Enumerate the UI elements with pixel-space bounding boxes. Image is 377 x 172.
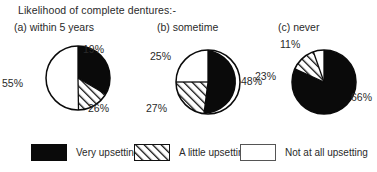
pie-c-value-black: 66%: [351, 91, 372, 103]
legend: Very upsetting A little upsetting Not: [0, 141, 377, 165]
pie-c-value-white: 11%: [280, 38, 300, 50]
hatch-swatch-svg: [135, 145, 169, 160]
panel-label-a: (a) within 5 years: [14, 21, 94, 33]
legend-item-a-little-upsetting: A little upsetting: [134, 141, 249, 163]
figure-title: Likelihood of complete dentures:-: [18, 4, 176, 16]
figure-container: Likelihood of complete dentures:- (a) wi…: [0, 0, 377, 172]
pie-chart-c: 66% 23% 11%: [264, 40, 377, 128]
pie-a-svg: [14, 40, 134, 128]
legend-label-not-at-all-upsetting: Not at all upsetting: [285, 147, 368, 158]
pie-a-value-hatched: 26%: [88, 102, 109, 114]
pie-chart-a: 19% 26% 55%: [14, 40, 134, 128]
panel-label-b: (b) sometime: [157, 21, 218, 33]
legend-swatch-empty-icon: [240, 144, 276, 161]
pie-c-value-hatched: 23%: [255, 70, 276, 82]
legend-label-a-little-upsetting: A little upsetting: [179, 147, 249, 158]
pie-chart-b: 48% 27% 25%: [148, 40, 268, 128]
pie-c-svg: [264, 40, 377, 128]
pie-a-value-white: 55%: [2, 77, 23, 89]
legend-swatch-solid-icon: [31, 144, 67, 161]
legend-swatch-hatched-icon: [134, 144, 170, 161]
legend-item-not-at-all-upsetting: Not at all upsetting: [240, 141, 368, 163]
pie-b-value-white: 25%: [150, 50, 171, 62]
pie-a-value-black: 19%: [83, 43, 104, 55]
pie-b-value-hatched: 27%: [146, 102, 167, 114]
panel-label-c: (c) never: [278, 21, 319, 33]
legend-item-very-upsetting: Very upsetting: [31, 141, 139, 163]
legend-label-very-upsetting: Very upsetting: [76, 147, 139, 158]
